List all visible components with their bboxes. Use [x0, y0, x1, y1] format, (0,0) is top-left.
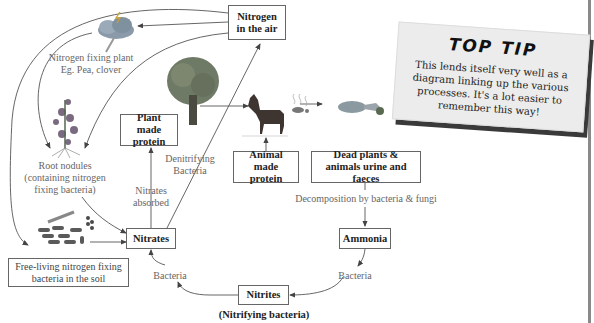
pea-plant-icon [40, 92, 90, 158]
label-root-line1: Root nodules [12, 160, 118, 172]
label-fixing-plant-line1: Nitrogen fixing plant [36, 52, 146, 64]
label-bacteria-ammonia: Bacteria [335, 270, 375, 282]
label-denitrifying-line2: Bacteria [162, 165, 218, 177]
node-animal-protein: Animal made protein [233, 151, 299, 183]
lightning-cloud-icon [92, 8, 138, 54]
node-ammonia: Ammonia [339, 228, 391, 249]
label-root-line3: fixing bacteria) [12, 184, 118, 196]
node-nitrates: Nitrates [126, 228, 176, 249]
label-root-nodules: Root nodules (containing nitrogen fixing… [12, 160, 118, 196]
dead-animal-icon [336, 95, 386, 119]
top-tip-card: TOP TIP This lends itself very well as a… [392, 21, 590, 132]
label-nitrates-absorbed: Nitrates absorbed [128, 185, 174, 209]
label-decomposition: Decomposition by bacteria & fungi [286, 193, 446, 205]
label-nitrates-absorbed-line2: absorbed [128, 197, 174, 209]
label-fixing-plant-line2: Eg. Pea, clover [36, 64, 146, 76]
label-bacteria-nitrites: Bacteria [150, 270, 190, 282]
label-denitrifying-line1: Denitrifying [162, 153, 218, 165]
dung-icon [288, 92, 312, 118]
node-plant-protein: Plant made protein [120, 114, 178, 146]
node-free-living-bacteria: Free-living nitrogen fixing bacteria in … [8, 258, 129, 287]
label-nitrates-absorbed-line1: Nitrates [128, 185, 174, 197]
node-nitrogen-air: Nitrogen in the air [228, 5, 286, 40]
node-dead-matter: Dead plants & animals urine and faeces [311, 151, 421, 183]
soil-bacteria-icon [34, 208, 98, 246]
node-nitrites: Nitrites [238, 285, 289, 305]
top-tip-body: This lends itself very well as a diagram… [400, 57, 581, 121]
label-root-line2: (containing nitrogen [12, 172, 118, 184]
label-denitrifying: Denitrifying Bacteria [162, 153, 218, 177]
label-nitrifying-bacteria: (Nitrifying bacteria) [214, 309, 314, 321]
horse-icon [240, 92, 290, 140]
label-fixing-plant: Nitrogen fixing plant Eg. Pea, clover [36, 52, 146, 76]
